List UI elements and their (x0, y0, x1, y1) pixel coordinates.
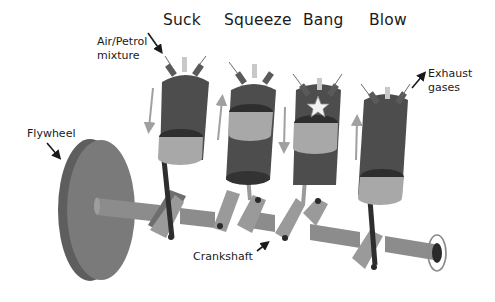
stroke-label-bang: Bang (303, 11, 344, 29)
exhaust-arrow (412, 75, 423, 88)
engine-diagram: Suck Squeeze Bang Blow Air/Petrol mixtur… (0, 0, 495, 302)
cylinder-bang (284, 74, 342, 205)
cylinder-blow (356, 84, 410, 265)
intake-arrow (148, 33, 160, 50)
flywheel-arrow (47, 143, 58, 156)
exhaust-label: Exhaust gases (428, 67, 472, 95)
crankshaft-label: Crankshaft (193, 250, 253, 264)
flywheel-label: Flywheel (27, 127, 75, 141)
crankshaft-arrow (257, 244, 266, 251)
stroke-label-suck: Suck (163, 11, 201, 29)
cylinder-squeeze (218, 62, 276, 200)
stroke-label-blow: Blow (369, 11, 407, 29)
intake-label: Air/Petrol mixture (97, 35, 147, 63)
stroke-label-squeeze: Squeeze (224, 11, 292, 29)
